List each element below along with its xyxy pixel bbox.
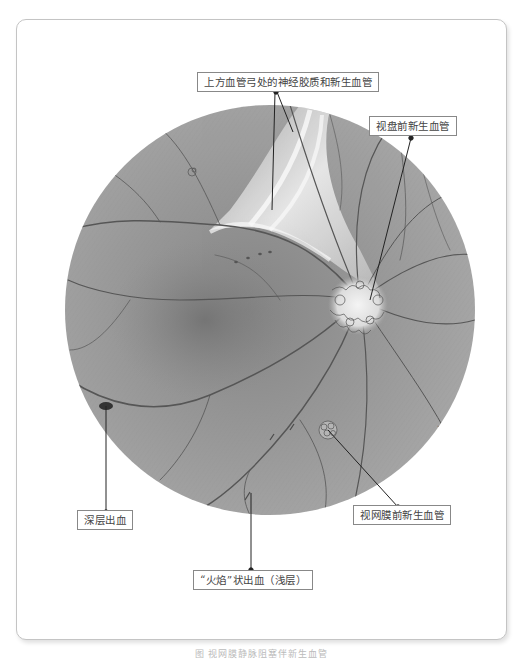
optic-disc — [328, 275, 388, 335]
label-flame-hemorrhage: “火焰”状出血（浅层） — [193, 570, 313, 590]
label-retinal-nv: 视网膜前新生血管 — [353, 505, 451, 525]
label-glial-nv: 上方血管弓处的神经胶质和新生血管 — [197, 72, 379, 92]
label-disc-nv: 视盘前新生血管 — [369, 116, 457, 136]
figure-caption: 图 视网膜静脉阻塞伴新生血管 — [0, 647, 523, 660]
macula — [110, 240, 300, 400]
label-deep-hemorrhage: 深层出血 — [77, 510, 133, 530]
